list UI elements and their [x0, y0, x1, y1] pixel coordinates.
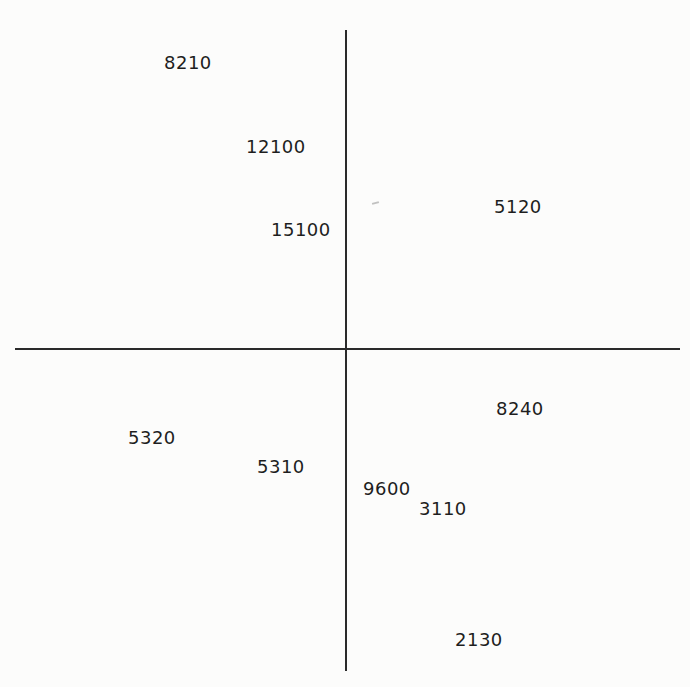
- code-label-5120: 5120: [494, 197, 542, 217]
- code-label-2130: 2130: [455, 630, 503, 650]
- code-label-15100: 15100: [271, 220, 331, 240]
- vertical-axis: [345, 30, 347, 671]
- code-label-5310: 5310: [257, 457, 305, 477]
- code-label-5320: 5320: [128, 428, 176, 448]
- code-label-8240: 8240: [496, 399, 544, 419]
- code-label-12100: 12100: [246, 137, 306, 157]
- diagram-canvas: 8210 12100 15100 5120 8240 5320 5310 960…: [0, 0, 690, 687]
- code-label-8210: 8210: [164, 53, 212, 73]
- code-label-9600: 9600: [363, 479, 411, 499]
- code-label-3110: 3110: [419, 499, 467, 519]
- scan-artifact: [372, 201, 379, 205]
- horizontal-axis: [15, 348, 680, 350]
